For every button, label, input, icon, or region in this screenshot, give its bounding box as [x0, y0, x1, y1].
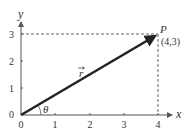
- point-p-label: P: [159, 23, 167, 35]
- y-tick-label: 1: [9, 83, 14, 94]
- x-axis-label: x: [175, 107, 182, 121]
- vector-r-arrow: [21, 36, 155, 115]
- angle-theta-label: θ: [43, 103, 49, 115]
- y-axis-label: y: [17, 7, 24, 21]
- y-tick-label: 2: [9, 56, 14, 67]
- y-tick-label: 3: [9, 29, 14, 40]
- x-tick-label: 4: [156, 119, 161, 130]
- point-p-coords: (4,3): [161, 36, 180, 48]
- x-tick-label: 3: [122, 119, 127, 130]
- x-tick-label: 1: [53, 119, 58, 130]
- y-tick-label: 0: [9, 109, 14, 120]
- vector-diagram: 0 1 2 3 4 0 1 2 3 x y θ r P (4,3): [0, 0, 191, 134]
- x-tick-label: 2: [88, 119, 93, 130]
- angle-theta-arc: [38, 105, 41, 115]
- x-tick-label: 0: [19, 119, 24, 130]
